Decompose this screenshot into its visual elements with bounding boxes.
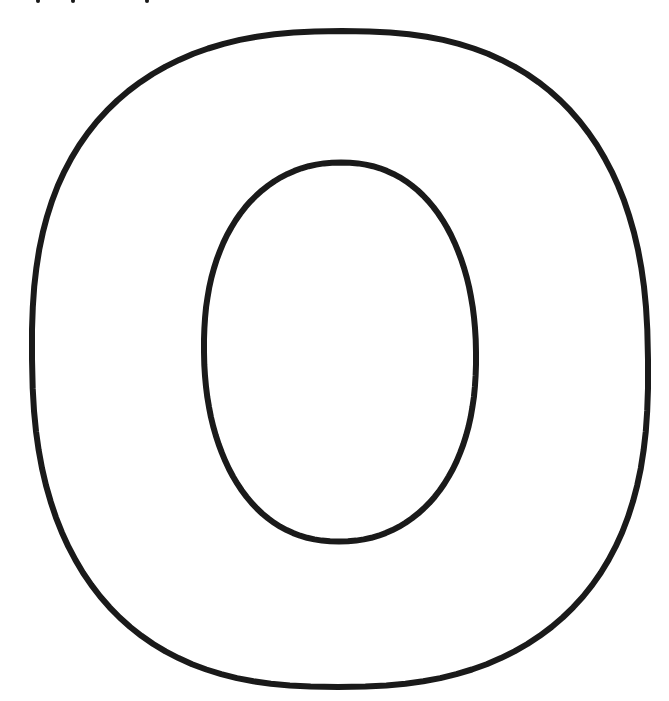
outer-outline <box>32 31 648 687</box>
top-edge-marks <box>36 0 149 3</box>
edge-mark <box>71 0 75 3</box>
letter-o-coloring-page <box>0 0 669 701</box>
inner-outline <box>204 163 476 542</box>
letter-o-outline <box>0 0 669 701</box>
edge-mark <box>145 0 149 3</box>
edge-mark <box>36 0 40 3</box>
